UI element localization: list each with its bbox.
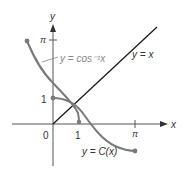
identity-label: y = x <box>131 49 154 60</box>
inverse-cosine-diagram: y x 0 1 π 1 π y = cos⁻¹x y = x y = C(x) <box>0 0 184 171</box>
identity-line <box>53 27 157 124</box>
y-tick-label-1: 1 <box>41 94 47 105</box>
arccos-end-dot <box>77 120 81 124</box>
arccos-start-dot <box>25 39 30 44</box>
arccos-leader-line <box>42 57 58 62</box>
x-axis-label: x <box>170 119 177 130</box>
cosine-start-dot <box>51 96 56 101</box>
cosine-end-dot <box>133 149 138 154</box>
y-tick-label-pi: π <box>40 35 47 45</box>
y-axis <box>50 24 56 166</box>
x-axis-arrow-icon <box>160 121 168 127</box>
y-axis-arrow-icon <box>50 24 56 32</box>
arccos-label: y = cos⁻¹x <box>59 53 106 64</box>
x-tick-label-1: 1 <box>75 130 81 141</box>
origin-label: 0 <box>43 130 49 141</box>
y-axis-label: y <box>49 11 56 22</box>
cosine-label: y = C(x) <box>81 146 117 157</box>
x-tick-label-pi: π <box>132 129 139 139</box>
